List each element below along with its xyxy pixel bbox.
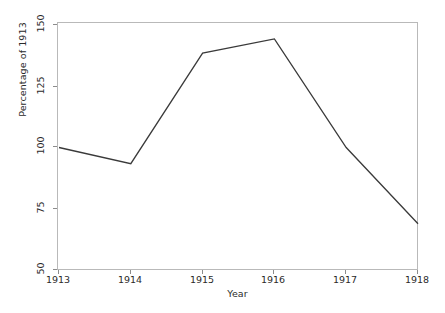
y-tick-label-100: 100 [35,131,46,161]
y-axis-title: Percentage of 1913 [17,0,28,155]
x-axis-title: Year [57,288,418,299]
y-tick-mark-50 [53,269,57,270]
y-tick-label-75: 75 [35,193,46,223]
y-tick-label-125: 125 [35,71,46,101]
x-tick-label-1915: 1915 [182,274,222,285]
y-tick-mark-150 [53,24,57,25]
x-tick-label-1914: 1914 [110,274,150,285]
x-tick-label-1916: 1916 [253,274,293,285]
x-tick-label-1913: 1913 [38,274,78,285]
data-series-line [59,39,418,224]
y-tick-mark-100 [53,146,57,147]
y-tick-mark-125 [53,86,57,87]
plot-area [57,22,418,270]
y-tick-label-150: 150 [35,9,46,39]
y-tick-mark-75 [53,208,57,209]
x-tick-label-1918: 1918 [397,274,437,285]
line-chart-figure: Percentage of 1913 150 125 100 75 50 191… [0,0,445,313]
x-tick-label-1917: 1917 [325,274,365,285]
data-line-layer [58,23,419,271]
